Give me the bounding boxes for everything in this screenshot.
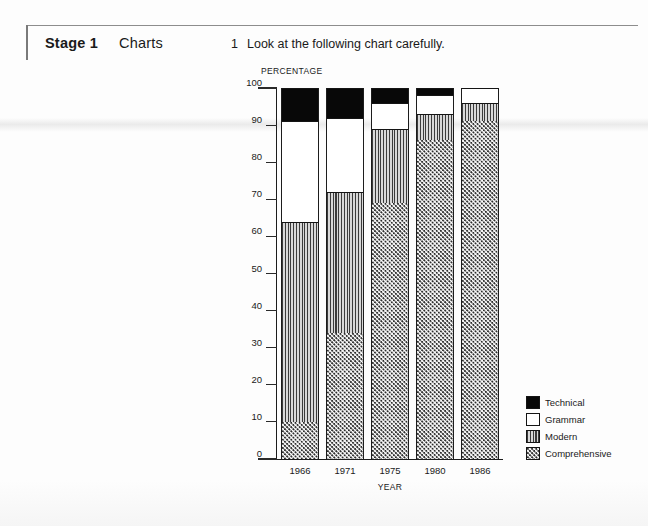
- y-tick-10: [266, 421, 277, 422]
- legend-item-comprehensive: Comprehensive: [526, 445, 612, 462]
- y-label-20: 20: [236, 374, 262, 385]
- segment-1980-grammar: [417, 95, 453, 114]
- segment-1975-grammar: [372, 103, 408, 129]
- y-label-60: 60: [236, 225, 262, 236]
- segment-1971-grammar: [327, 118, 363, 192]
- chart-legend: TechnicalGrammarModernComprehensive: [526, 394, 612, 462]
- y-label-100: 100: [236, 77, 262, 88]
- y-tick-90: [266, 125, 277, 126]
- segment-1975-technical: [372, 88, 408, 103]
- bar-cap-1986: [462, 88, 498, 89]
- x-label-1980: 1980: [416, 465, 454, 476]
- bar-cap-1980: [417, 88, 453, 89]
- y-axis-title: PERCENTAGE: [261, 66, 322, 76]
- bar-1980: [416, 88, 454, 459]
- y-label-0: 0: [236, 448, 262, 459]
- legend-swatch-comprehensive: [526, 447, 540, 460]
- segment-1975-comprehensive: [372, 203, 408, 459]
- segment-1980-modern: [417, 114, 453, 140]
- y-label-50: 50: [236, 263, 262, 274]
- x-label-1986: 1986: [461, 465, 499, 476]
- legend-label-technical: Technical: [545, 397, 585, 408]
- segment-1986-modern: [462, 103, 498, 122]
- y-tick-80: [266, 162, 277, 163]
- x-label-1966: 1966: [281, 465, 319, 476]
- y-label-10: 10: [236, 411, 262, 422]
- stacked-bar-chart: PERCENTAGE 0102030405060708090100 196619…: [0, 0, 648, 526]
- segment-1971-modern: [327, 192, 363, 333]
- segment-1966-modern: [282, 222, 318, 422]
- legend-swatch-grammar: [526, 413, 540, 426]
- y-label-30: 30: [236, 337, 262, 348]
- y-tick-50: [266, 273, 277, 274]
- legend-item-modern: Modern: [526, 428, 612, 445]
- segment-1966-grammar: [282, 121, 318, 221]
- y-label-40: 40: [236, 300, 262, 311]
- y-label-80: 80: [236, 151, 262, 162]
- y-tick-20: [266, 384, 277, 385]
- bar-1986: [461, 88, 499, 459]
- legend-item-grammar: Grammar: [526, 411, 612, 428]
- legend-swatch-technical: [526, 396, 540, 409]
- bar-cap-1966: [282, 88, 318, 89]
- segment-1971-comprehensive: [327, 333, 363, 459]
- y-tick-30: [266, 347, 277, 348]
- segment-1966-comprehensive: [282, 422, 318, 459]
- segment-1975-modern: [372, 129, 408, 203]
- bar-1971: [326, 88, 364, 459]
- y-label-90: 90: [236, 114, 262, 125]
- segment-1971-technical: [327, 88, 363, 118]
- x-axis-line: [258, 459, 503, 460]
- legend-item-technical: Technical: [526, 394, 612, 411]
- y-label-70: 70: [236, 188, 262, 199]
- y-tick-40: [266, 310, 277, 311]
- legend-swatch-modern: [526, 430, 540, 443]
- bar-1966: [281, 88, 319, 459]
- legend-label-grammar: Grammar: [545, 414, 585, 425]
- segment-1966-technical: [282, 88, 318, 121]
- legend-label-modern: Modern: [545, 431, 577, 442]
- bar-cap-1971: [327, 88, 363, 89]
- y-tick-60: [266, 236, 277, 237]
- x-axis-title: YEAR: [371, 482, 409, 492]
- x-label-1975: 1975: [371, 465, 409, 476]
- bar-cap-1975: [372, 88, 408, 89]
- segment-1980-comprehensive: [417, 140, 453, 459]
- segment-1986-comprehensive: [462, 121, 498, 459]
- bar-1975: [371, 88, 409, 459]
- x-label-1971: 1971: [326, 465, 364, 476]
- legend-label-comprehensive: Comprehensive: [545, 448, 612, 459]
- segment-1986-grammar: [462, 88, 498, 103]
- y-tick-70: [266, 199, 277, 200]
